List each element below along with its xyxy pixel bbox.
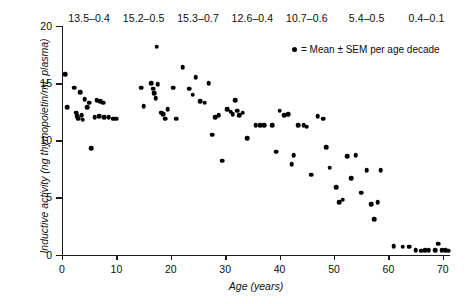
legend-marker-icon [292, 47, 297, 52]
data-point [296, 123, 301, 128]
data-point [337, 200, 342, 205]
data-point [80, 117, 85, 122]
data-point [443, 248, 448, 253]
data-point [235, 108, 240, 113]
data-point [305, 124, 310, 129]
x-axis-tick [443, 255, 444, 260]
data-point [369, 202, 374, 207]
decade-mean-label: 15.3–0.7 [177, 12, 219, 24]
data-point [85, 105, 90, 110]
data-point [161, 112, 166, 117]
data-point [95, 98, 100, 103]
data-point [213, 115, 218, 120]
y-axis-tick [56, 83, 62, 84]
data-point [159, 111, 164, 116]
data-point [106, 115, 111, 120]
data-point [446, 248, 451, 253]
y-axis-tick-label: 10 [30, 134, 52, 146]
x-axis-tick [334, 255, 335, 260]
data-point [210, 132, 215, 137]
y-axis-tick-label: 15 [30, 77, 52, 89]
data-point [291, 153, 296, 158]
data-point [345, 154, 350, 159]
data-point [180, 65, 185, 70]
data-point [139, 85, 144, 90]
y-axis-tick [56, 140, 62, 141]
data-point [419, 248, 424, 253]
data-point [321, 116, 326, 121]
data-point [359, 191, 364, 196]
data-point [154, 44, 159, 49]
data-point [364, 168, 369, 173]
data-point [202, 100, 207, 105]
data-point [72, 85, 77, 90]
data-point [152, 91, 157, 96]
data-point [149, 81, 154, 86]
data-point [289, 162, 294, 167]
x-axis-tick-label: 40 [274, 263, 286, 275]
data-point [155, 82, 160, 87]
decade-mean-label: 13.5–0.4 [68, 12, 110, 24]
data-point [349, 176, 354, 181]
x-axis-tick [116, 255, 117, 260]
y-axis-tick-label: 0 [30, 249, 52, 261]
data-point [245, 136, 250, 141]
data-point [83, 97, 88, 102]
x-axis-line [62, 255, 450, 256]
legend-label: = Mean ± SEM per age decade [301, 44, 440, 55]
data-point [413, 248, 418, 253]
x-axis-tick [388, 255, 389, 260]
y-axis-line [62, 26, 63, 255]
data-point [163, 116, 168, 121]
data-point [253, 123, 258, 128]
data-point [198, 99, 203, 104]
data-point [102, 115, 107, 120]
data-point [237, 113, 242, 118]
data-point [233, 98, 238, 103]
chart-legend: = Mean ± SEM per age decade [292, 44, 440, 55]
data-point [74, 111, 79, 116]
data-point [220, 159, 225, 164]
data-point [258, 123, 263, 128]
y-axis-tick-label: 5 [30, 191, 52, 203]
data-point [114, 116, 119, 121]
x-axis-tick-label: 10 [111, 263, 123, 275]
scatter-plot-figure: 13.5–0.415.2–0.515.3–0.712.6–0.410.7–0.6… [0, 0, 475, 304]
data-point [101, 100, 106, 105]
data-point [436, 241, 441, 246]
data-point [98, 99, 103, 104]
data-point [378, 168, 383, 173]
data-point [375, 200, 380, 205]
data-point [392, 244, 397, 249]
data-point [433, 248, 438, 253]
data-point [228, 109, 233, 114]
data-point [324, 145, 329, 150]
data-point [372, 217, 377, 222]
x-axis-title: Age (years) [62, 280, 450, 292]
data-point [92, 115, 97, 120]
x-axis-tick [62, 255, 63, 260]
x-axis-tick-label: 0 [59, 263, 65, 275]
data-point [174, 116, 179, 121]
data-point [75, 114, 80, 119]
data-point [63, 72, 68, 77]
data-point [225, 107, 230, 112]
x-axis-tick-label: 20 [165, 263, 177, 275]
decade-mean-label: 12.6–0.4 [232, 12, 274, 24]
y-axis-tick [56, 26, 62, 27]
data-point [334, 185, 339, 190]
data-point [423, 248, 428, 253]
x-axis-tick-label: 50 [328, 263, 340, 275]
data-point [309, 172, 314, 177]
data-point [282, 113, 287, 118]
data-point [340, 197, 345, 202]
data-point [277, 108, 282, 113]
x-axis-tick [225, 255, 226, 260]
data-point [407, 244, 412, 249]
data-point [274, 149, 279, 154]
data-point [190, 92, 195, 97]
data-point [79, 113, 84, 118]
data-point [231, 112, 236, 117]
x-axis-tick [171, 255, 172, 260]
data-point [400, 244, 405, 249]
